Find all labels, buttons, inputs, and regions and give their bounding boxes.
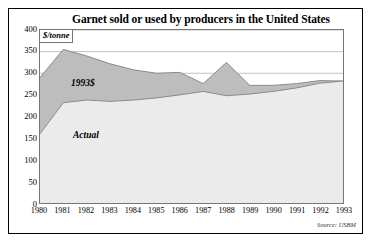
- y-axis-tick-label: 50: [11, 178, 37, 187]
- y-axis-tick-label: 250: [11, 90, 37, 99]
- y-axis: 050100150200250300350400: [9, 29, 37, 204]
- x-axis: 1980198119821983198419851986198719881989…: [39, 206, 344, 220]
- y-axis-tick-label: 200: [11, 112, 37, 121]
- y-axis-tick-label: 400: [11, 25, 37, 34]
- chart-figure: Garnet sold or used by producers in the …: [8, 8, 363, 234]
- series-label-constant-dollar: 1993$: [71, 78, 95, 88]
- series-label-actual: Actual: [73, 130, 99, 140]
- unit-label: $/tonne: [40, 30, 73, 43]
- y-axis-tick-label: 350: [11, 46, 37, 55]
- page-title: Garnet sold or used by producers in the …: [45, 13, 357, 25]
- y-axis-tick-label: 150: [11, 134, 37, 143]
- y-axis-tick-label: 100: [11, 156, 37, 165]
- y-axis-tick-label: 300: [11, 68, 37, 77]
- source-note: Source: USBM: [317, 221, 356, 228]
- x-axis-tick-label: 1993: [327, 206, 361, 216]
- plot-area: [39, 29, 344, 204]
- area-chart-svg: [40, 30, 343, 203]
